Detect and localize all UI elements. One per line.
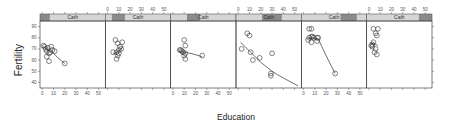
panel: Cath01020304050 [236,7,301,91]
x-tick-label: 40 [85,91,91,96]
data-point [49,44,54,49]
loess-line [241,42,299,86]
x-tick-label: 20 [193,91,199,96]
y-tick-label: 80 [31,35,37,40]
data-point [44,54,49,59]
data-point [315,39,320,44]
panel-border [171,21,236,88]
panels-group: Cath01020304050Cath01020304050Cath010203… [31,7,434,97]
x-tick-label: 20 [258,7,264,12]
x-tick-label: 20 [324,91,330,96]
panel: Cath01020304050 [105,7,170,91]
x-tick-label: 10 [378,7,384,12]
data-point [369,43,374,48]
x-tick-label: 0 [106,7,109,12]
x-tick-label: 30 [335,91,341,96]
chart: Cath01020304050Cath01020304050Cath010203… [0,0,455,130]
y-tick-label: 60 [31,58,37,63]
strip-shingle-range [419,14,432,21]
data-point [373,47,378,52]
strip-shingle-range [40,14,50,21]
x-tick-label: 50 [357,91,363,96]
data-point [257,55,262,60]
x-tick-label: 0 [368,7,371,12]
x-tick-label: 20 [62,91,68,96]
data-point [120,40,125,45]
data-point [41,43,46,48]
x-tick-label: 40 [150,7,156,12]
x-tick-label: 30 [204,91,210,96]
data-point [115,41,120,46]
x-tick-label: 30 [270,7,276,12]
data-point [62,61,67,66]
x-tick-label: 0 [237,7,240,12]
x-tick-label: 30 [139,7,145,12]
x-tick-label: 40 [215,91,221,96]
y-axis-title: Fertility [13,44,24,76]
data-point [239,47,244,52]
x-axis-title: Education [217,112,255,122]
x-tick-label: 50 [161,7,167,12]
x-tick-label: 10 [312,91,318,96]
loess-line [308,38,335,74]
data-point [113,38,118,43]
x-tick-label: 30 [74,91,80,96]
panel: Cath01020304050 [171,12,236,96]
y-tick-label: 70 [31,46,37,51]
x-tick-label: 40 [411,7,417,12]
strip-shingle-range [112,14,125,21]
panel: Cath01020304050 [367,7,432,91]
panel: Cath01020304050 [40,12,105,96]
strip-label: Cath [394,14,405,20]
data-point [310,34,315,39]
data-point [309,40,314,45]
x-tick-label: 0 [172,91,175,96]
x-tick-label: 0 [41,91,44,96]
y-tick-label: 40 [31,80,37,85]
strip-shingle-range [341,14,357,21]
data-point [183,43,188,48]
data-point [47,59,52,64]
y-tick-label: 90 [31,24,37,29]
x-tick-label: 20 [128,7,134,12]
x-tick-label: 20 [389,7,395,12]
data-point [270,51,275,56]
x-tick-label: 40 [346,91,352,96]
strip-label: Cath [263,14,274,20]
data-point [183,57,188,62]
panel: Cath01020304050 [301,12,366,96]
x-tick-label: 50 [292,7,298,12]
strip-label: Cath [133,14,144,20]
x-tick-label: 30 [400,7,406,12]
data-point [182,38,187,43]
strip-label: Cath [329,14,340,20]
data-point [250,58,255,63]
x-tick-label: 10 [51,91,57,96]
strip-label: Cath [67,14,78,20]
data-point [200,53,205,58]
x-tick-label: 0 [302,91,305,96]
data-point [376,26,381,31]
x-tick-label: 50 [227,91,233,96]
y-tick-label: 50 [31,69,37,74]
data-point [371,26,376,31]
x-tick-label: 50 [96,91,102,96]
data-point [114,57,119,62]
x-tick-label: 10 [116,7,122,12]
x-tick-label: 50 [423,7,429,12]
strip-label: Cath [198,14,209,20]
x-tick-label: 40 [281,7,287,12]
x-tick-label: 10 [182,91,188,96]
x-tick-label: 10 [247,7,253,12]
